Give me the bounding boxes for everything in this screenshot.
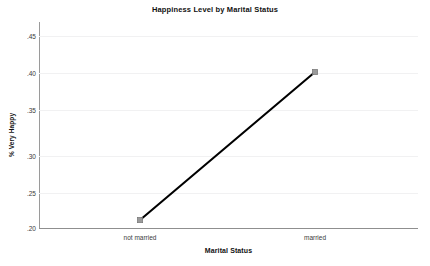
y-tick-label-025: .25	[0, 190, 36, 197]
y-tick-label-045: .45	[0, 33, 36, 40]
gridline-025	[39, 193, 418, 194]
x-axis-line	[39, 228, 418, 229]
x-tick-label-married: married	[255, 234, 375, 242]
y-tick-label-020: .20	[0, 225, 36, 232]
gridline-045	[39, 36, 418, 37]
data-point-not-married	[137, 217, 142, 222]
y-axis-line	[39, 22, 40, 229]
chart-container: Happiness Level by Marital Status .45 .4…	[0, 0, 430, 266]
chart-title: Happiness Level by Marital Status	[0, 5, 430, 14]
gridline-040	[39, 73, 418, 74]
y-axis-title: % Very Happy	[5, 95, 17, 175]
y-axis-title-text: % Very Happy	[8, 113, 15, 157]
series-line	[140, 72, 315, 220]
series-line-group	[0, 0, 430, 266]
y-tick-label-040: .40	[0, 70, 36, 77]
gridline-030	[39, 156, 418, 157]
x-axis-title: Marital Status	[39, 247, 418, 254]
gridline-035	[39, 110, 418, 111]
x-tick-label-not-married: not married	[80, 234, 200, 242]
